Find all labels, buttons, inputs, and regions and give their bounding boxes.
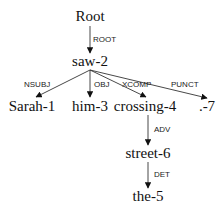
node-street: street-6 (126, 145, 171, 161)
edge-label-nsubj: NSUBJ (24, 80, 50, 89)
edge-label-xcomp: XCOMP (122, 80, 151, 89)
edge-label-det: DET (154, 170, 170, 179)
node-crossing: crossing-4 (114, 98, 177, 114)
edge-label-root: ROOT (93, 35, 116, 44)
edge-label-obj: OBJ (94, 80, 110, 89)
dependency-tree-diagram: ROOTNSUBJOBJXCOMPPUNCTADVDET Rootsaw-2Sa… (0, 0, 223, 212)
edge-label-adv: ADV (154, 125, 171, 134)
node-root: Root (75, 8, 105, 24)
edge-label-punct: PUNCT (171, 80, 199, 89)
node-him: him-3 (72, 98, 108, 114)
diagram-svg: ROOTNSUBJOBJXCOMPPUNCTADVDET Rootsaw-2Sa… (0, 0, 223, 212)
node-the: the-5 (133, 188, 164, 204)
node-saw: saw-2 (72, 53, 108, 69)
node-sarah: Sarah-1 (9, 98, 56, 114)
node-punct: .-7 (199, 98, 216, 114)
